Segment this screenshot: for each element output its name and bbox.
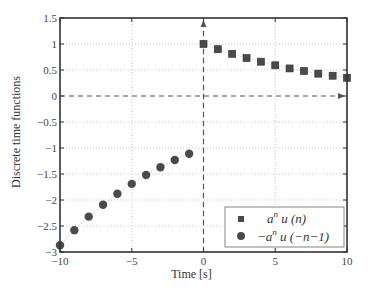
square-marker <box>214 46 221 53</box>
y-tick-label: −1 <box>45 142 57 154</box>
square-marker <box>200 41 207 48</box>
square-marker <box>315 70 322 77</box>
y-tick-label: −3 <box>45 246 57 258</box>
circle-marker <box>142 171 150 179</box>
chart: −10−50510−3−2.5−2−1.5−1−0.500.511.5 Time… <box>0 0 370 293</box>
x-tick-label: −5 <box>126 255 138 267</box>
circle-marker <box>171 156 179 164</box>
legend-label-causal: an u (n) <box>267 209 306 226</box>
y-tick-label: 1 <box>52 38 58 50</box>
y-tick-label: −2.5 <box>37 220 57 232</box>
square-marker <box>329 72 336 79</box>
y-tick-label: 0 <box>52 90 58 102</box>
y-axis-title: Discrete time functions <box>9 76 23 188</box>
circle-marker <box>99 200 107 208</box>
circle-marker-icon <box>237 232 245 240</box>
y-tick-label: −1.5 <box>37 168 57 180</box>
square-marker <box>257 58 264 65</box>
y-tick-label: −0.5 <box>37 116 57 128</box>
square-marker-icon <box>238 216 244 222</box>
x-tick-label: 5 <box>273 255 279 267</box>
x-tick-label: 0 <box>201 255 207 267</box>
circle-marker <box>70 226 78 234</box>
legend: an u (n) −an u (−n−1) <box>225 207 344 247</box>
square-marker <box>243 55 250 62</box>
circle-marker <box>85 212 93 220</box>
x-axis-title: Time [s] <box>171 267 212 281</box>
square-marker <box>286 65 293 72</box>
y-tick-label: −2 <box>45 194 57 206</box>
y-tick-label: 0.5 <box>43 64 57 76</box>
circle-marker <box>128 180 136 188</box>
y-tick-label: 1.5 <box>43 12 57 24</box>
square-marker <box>300 68 307 75</box>
square-marker <box>229 50 236 57</box>
x-tick-label: 10 <box>342 255 354 267</box>
circle-marker <box>185 150 193 158</box>
circle-marker <box>156 163 164 171</box>
circle-marker <box>113 190 121 198</box>
square-marker <box>272 62 279 69</box>
legend-label-anticausal: −an u (−n−1) <box>257 227 329 244</box>
